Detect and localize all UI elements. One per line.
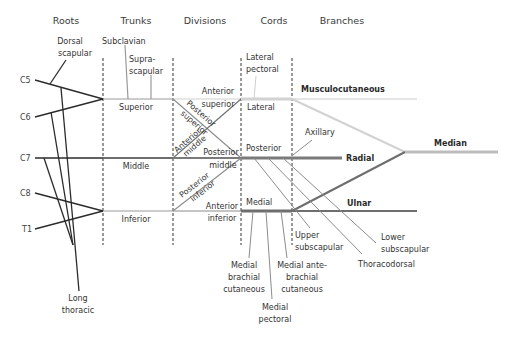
cord-label-posterior: Posterior [246, 144, 282, 153]
header-trunks: Trunks [120, 15, 152, 26]
root-c6-line [35, 99, 103, 117]
root-label-c5: C5 [20, 76, 31, 85]
axillary-line [293, 140, 312, 155]
root-label-t1: T1 [21, 225, 32, 234]
medial-brachial-cutaneous-line [249, 211, 253, 258]
medial-antebrachial-cutaneous-label-3: cutaneous [281, 285, 323, 294]
suprascapular-label-1: Supra- [129, 55, 155, 64]
root-label-c8: C8 [20, 189, 31, 198]
column-headers: Roots Trunks Divisions Cords Branches [53, 15, 364, 26]
root-labels: C5 C6 C7 C8 T1 Dorsal scapular Long thor… [20, 37, 94, 315]
upper-subscapular-label-1: Upper [295, 231, 320, 240]
medial-brachial-cutaneous-label-3: cutaneous [223, 285, 265, 294]
cord-labels: Lateral Posterior Medial Lateral pectora… [246, 53, 282, 207]
dorsal-scapular-label-1: Dorsal [57, 37, 83, 46]
subclavian-line [125, 45, 128, 99]
medial-antebrachial-cutaneous-label-1: Medial ante- [277, 261, 327, 270]
dorsal-scapular-line [50, 60, 66, 84]
median-lateral-root-line [292, 99, 405, 152]
cord-label-lateral: Lateral [247, 103, 275, 112]
anterior-superior-label-1: Anterior [202, 87, 235, 96]
medial-brachial-cutaneous-label-2: brachial [228, 273, 260, 282]
anterior-superior-label-2: superior [202, 100, 236, 109]
branch-label-musculocutaneous: Musculocutaneous [301, 85, 385, 94]
header-branches: Branches [320, 15, 364, 26]
anterior-inferior-label-1: Anterior [206, 202, 239, 211]
medial-antebrachial-cutaneous-line [281, 211, 287, 258]
cord-label-medial: Medial [246, 198, 272, 207]
lateral-pectoral-line [254, 76, 256, 99]
suprascapular-label-2: scapular [129, 67, 164, 76]
posterior-middle-label-1: Posterior [203, 148, 239, 157]
brachial-plexus-diagram: Roots Trunks Divisions Cords Branches C5… [0, 0, 517, 338]
trunk-label-middle: Middle [123, 162, 150, 171]
branch-label-ulnar: Ulnar [347, 199, 371, 208]
subclavian-label: Subclavian [102, 37, 146, 46]
medial-antebrachial-cutaneous-label-2: brachial [286, 273, 318, 282]
root-label-c7: C7 [20, 154, 31, 163]
long-thoracic-trunk [75, 245, 79, 291]
root-label-c6: C6 [20, 113, 31, 122]
medial-pectoral-label-2: pectoral [259, 315, 292, 324]
medial-pectoral-line [266, 211, 272, 299]
long-thoracic-label-1: Long [68, 294, 87, 303]
lateral-pectoral-label-2: pectoral [246, 65, 279, 74]
medial-pectoral-label-1: Medial [262, 303, 288, 312]
trunk-label-inferior: Inferior [122, 215, 152, 224]
roots [35, 60, 103, 291]
anterior-inferior-label-2: inferior [208, 214, 237, 223]
trunk-label-superior: Superior [119, 103, 154, 112]
branch-label-median: Median [434, 139, 467, 148]
root-c8-line [35, 193, 103, 211]
medial-brachial-cutaneous-label-1: Medial [231, 261, 257, 270]
header-roots: Roots [53, 15, 80, 26]
dorsal-scapular-label-2: scapular [58, 49, 93, 58]
branch-label-axillary: Axillary [305, 128, 335, 137]
lateral-pectoral-label-1: Lateral [246, 53, 274, 62]
thoracodorsal-label: Thoracodorsal [357, 260, 415, 269]
branch-label-radial: Radial [346, 154, 374, 163]
lower-subscapular-label-2: subscapular [381, 245, 430, 254]
posterior-middle-label-2: middle [209, 161, 236, 170]
long-thoracic-label-2: thoracic [62, 306, 94, 315]
lower-subscapular-label-1: Lower [381, 233, 406, 242]
header-cords: Cords [260, 15, 287, 26]
header-divisions: Divisions [184, 15, 227, 26]
trunk-labels: Superior Middle Inferior Subclavian Supr… [102, 37, 164, 224]
root-c5-line [35, 80, 103, 99]
upper-subscapular-label-2: subscapular [295, 243, 344, 252]
